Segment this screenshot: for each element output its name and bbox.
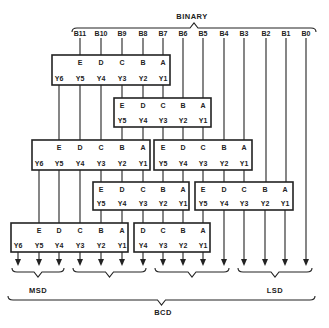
brace [73, 268, 146, 277]
input-pin-a: A [119, 227, 124, 234]
output-pin-y2: Y2 [220, 160, 229, 167]
input-pin-d: D [77, 144, 82, 151]
module-m1: EDCBAY6Y5Y4Y3Y2Y1 [52, 55, 170, 85]
input-label-b6: B6 [179, 30, 188, 37]
output-pin-y1: Y1 [240, 160, 249, 167]
output-pin-y4: Y4 [97, 75, 106, 82]
output-pin-y4: Y4 [139, 242, 148, 249]
brace [238, 268, 312, 277]
input-pin-b: B [119, 144, 124, 151]
input-pin-c: C [119, 59, 124, 66]
input-pin-d: D [119, 186, 124, 193]
input-pin-e: E [201, 186, 206, 193]
msd-label: MSD [29, 286, 47, 295]
arrow-head-icon [160, 259, 166, 266]
lsd-label: LSD [267, 286, 284, 295]
output-pin-y2: Y2 [179, 242, 188, 249]
binary-to-bcd-diagram: EDCBAY6Y5Y4Y3Y2Y1EDCBAY5Y4Y3Y2Y1EDCBAY6Y… [0, 0, 329, 328]
input-label-b3: B3 [240, 30, 249, 37]
input-pin-d: D [98, 59, 103, 66]
output-pin-y3: Y3 [159, 117, 168, 124]
output-pin-y1: Y1 [199, 242, 208, 249]
arrow-head-icon [282, 259, 288, 266]
output-pin-y2: Y2 [97, 242, 106, 249]
input-pin-e: E [99, 186, 104, 193]
input-pin-a: A [160, 59, 165, 66]
input-pin-a: A [282, 186, 287, 193]
arrow-head-icon [15, 259, 21, 266]
input-pin-d: D [140, 227, 145, 234]
output-pin-y6: Y6 [14, 242, 23, 249]
output-pin-y4: Y4 [76, 160, 85, 167]
module-m5: EDCBAY5Y4Y3Y2Y1 [93, 182, 189, 210]
output-pin-y1: Y1 [159, 75, 168, 82]
input-pin-b: B [262, 186, 267, 193]
input-label-b1: B1 [282, 30, 291, 37]
output-pin-y5: Y5 [55, 160, 64, 167]
output-pin-y5: Y5 [35, 242, 44, 249]
module-box [32, 140, 150, 170]
binary-label: BINARY [176, 12, 207, 21]
input-pin-c: C [160, 227, 165, 234]
input-pin-a: A [180, 186, 185, 193]
input-label-b9: B9 [118, 30, 127, 37]
input-pin-a: A [200, 227, 205, 234]
input-label-b2: B2 [262, 30, 271, 37]
output-pin-y5: Y5 [118, 117, 127, 124]
output-pin-y5: Y5 [159, 160, 168, 167]
arrow-head-icon [140, 259, 146, 266]
input-pin-d: D [180, 144, 185, 151]
output-pin-y2: Y2 [261, 200, 270, 207]
input-pin-e: E [57, 144, 62, 151]
output-pin-y3: Y3 [240, 200, 249, 207]
input-label-b0: B0 [302, 30, 311, 37]
input-label-b5: B5 [199, 30, 208, 37]
input-pin-a: A [241, 144, 246, 151]
output-pin-y2: Y2 [159, 200, 168, 207]
input-pin-c: C [98, 144, 103, 151]
input-pin-c: C [241, 186, 246, 193]
input-pin-e: E [37, 227, 42, 234]
input-label-b7: B7 [159, 30, 168, 37]
input-pin-b: B [98, 227, 103, 234]
module-box [11, 223, 128, 252]
input-pin-e: E [161, 144, 166, 151]
arrow-head-icon [221, 259, 227, 266]
output-pin-y5: Y5 [76, 75, 85, 82]
brace [72, 23, 316, 32]
binary-inputs: B11B10B9B8B7B6B5B4B3B2B1B0 [74, 30, 311, 37]
output-pin-y3: Y3 [159, 242, 168, 249]
input-pin-d: D [140, 102, 145, 109]
output-pin-y2: Y2 [118, 160, 127, 167]
output-pin-y3: Y3 [139, 200, 148, 207]
input-label-b4: B4 [220, 30, 229, 37]
arrow-head-icon [262, 259, 268, 266]
converter-modules: EDCBAY6Y5Y4Y3Y2Y1EDCBAY5Y4Y3Y2Y1EDCBAY6Y… [11, 55, 293, 252]
module-m8: DCBAY4Y3Y2Y1 [134, 223, 210, 252]
arrow-head-icon [303, 259, 309, 266]
arrow-head-icon [77, 259, 83, 266]
input-pin-e: E [120, 102, 125, 109]
output-pin-y3: Y3 [97, 160, 106, 167]
input-pin-c: C [200, 144, 205, 151]
output-arrows [15, 259, 309, 266]
input-pin-c: C [77, 227, 82, 234]
input-label-b10: B10 [95, 30, 108, 37]
output-pin-y1: Y1 [139, 160, 148, 167]
brace [12, 268, 64, 277]
module-m2: EDCBAY5Y4Y3Y2Y1 [114, 98, 211, 127]
bcd-label: BCD [154, 308, 172, 317]
brace [155, 268, 229, 277]
input-pin-a: A [200, 102, 205, 109]
output-pin-y2: Y2 [139, 75, 148, 82]
module-m7: EDCBAY6Y5Y4Y3Y2Y1 [11, 223, 128, 252]
input-pin-d: D [221, 186, 226, 193]
input-pin-e: E [78, 59, 83, 66]
input-pin-b: B [180, 102, 185, 109]
input-pin-c: C [140, 186, 145, 193]
input-pin-b: B [180, 227, 185, 234]
arrow-head-icon [180, 259, 186, 266]
output-pin-y4: Y4 [179, 160, 188, 167]
output-pin-y3: Y3 [76, 242, 85, 249]
arrow-head-icon [36, 259, 42, 266]
